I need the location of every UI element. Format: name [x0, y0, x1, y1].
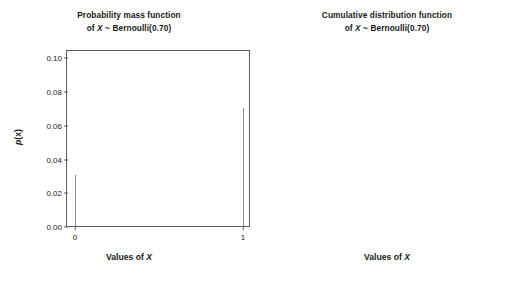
figure-canvas: Probability mass function of X ~ Bernoul… [0, 0, 516, 281]
plot-area-pmf: 0.00 0.02 0.04 0.06 0.08 0.10 0 1 [66, 50, 250, 227]
xtick-pmf-1: 1 [241, 226, 245, 242]
ytick-pmf-1: 0.02 [46, 189, 67, 198]
panel-cdf: Cumulative distribution function of X ~ … [258, 0, 516, 281]
panel-cdf-title-line1: Cumulative distribution function [258, 9, 516, 22]
xtick-pmf-0: 0 [73, 226, 77, 242]
panel-pmf-title-line2: of X ~ Bernoulli(0.70) [0, 22, 258, 35]
xaxis-title-cdf: Values of X [258, 252, 516, 262]
ytick-pmf-4: 0.08 [46, 88, 67, 97]
panel-cdf-title-line2: of X ~ Bernoulli(0.70) [258, 22, 516, 35]
pmf-spike-x1 [243, 108, 244, 226]
panel-cdf-title: Cumulative distribution function of X ~ … [258, 9, 516, 35]
ytick-pmf-0: 0.00 [46, 223, 67, 232]
panel-pmf-title: Probability mass function of X ~ Bernoul… [0, 9, 258, 35]
ytick-pmf-5: 0.10 [46, 54, 67, 63]
panel-pmf-title-line1: Probability mass function [0, 9, 258, 22]
yaxis-title-pmf: p(x) [13, 117, 23, 157]
panel-pmf: Probability mass function of X ~ Bernoul… [0, 0, 258, 281]
ytick-pmf-2: 0.04 [46, 155, 67, 164]
pmf-spike-x0 [75, 175, 76, 226]
ytick-pmf-3: 0.06 [46, 121, 67, 130]
xaxis-title-pmf: Values of X [0, 252, 258, 262]
